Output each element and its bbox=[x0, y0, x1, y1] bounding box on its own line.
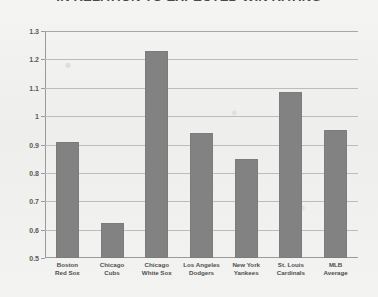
x-axis-label: ChicagoCubs bbox=[91, 261, 134, 277]
x-axis-label: MLBAverage bbox=[314, 261, 357, 277]
x-axis-label: BostonRed Sox bbox=[46, 261, 89, 277]
y-tick-label: 1.1 bbox=[29, 84, 39, 91]
x-axis-label-line: Chicago bbox=[91, 261, 134, 269]
x-axis-label-line: New York bbox=[225, 261, 268, 269]
chart-title-text: IN RELATION TO EXPECTED WIN RATING bbox=[56, 0, 321, 4]
y-tick-label: 0.7 bbox=[29, 198, 39, 205]
bar-slot bbox=[190, 31, 213, 258]
x-axis-label-line: Red Sox bbox=[46, 269, 89, 277]
y-tick-label: 0.5 bbox=[29, 255, 39, 262]
x-axis-label: Los AngelesDodgers bbox=[180, 261, 223, 277]
y-tick-label: 0.6 bbox=[29, 226, 39, 233]
x-axis-label: New YorkYankees bbox=[225, 261, 268, 277]
y-tick-mark bbox=[41, 258, 45, 259]
bar bbox=[235, 159, 258, 258]
plot-area: 0.50.60.70.80.911.11.21.3 bbox=[45, 31, 358, 258]
bar-slot bbox=[145, 31, 168, 258]
bar-chart-figure: IN RELATION TO EXPECTED WIN RATING 0.50.… bbox=[0, 0, 378, 297]
x-axis-label-line: Cardinals bbox=[270, 269, 313, 277]
bar-slot bbox=[324, 31, 347, 258]
y-tick-label: 0.8 bbox=[29, 169, 39, 176]
x-axis-labels: BostonRed SoxChicagoCubsChicagoWhite Sox… bbox=[45, 261, 358, 291]
bar-slot bbox=[56, 31, 79, 258]
x-axis-label-line: Chicago bbox=[135, 261, 178, 269]
bar bbox=[145, 51, 168, 258]
x-axis-label-line: White Sox bbox=[135, 269, 178, 277]
y-tick-label: 1 bbox=[35, 113, 39, 120]
x-axis-label-line: St. Louis bbox=[270, 261, 313, 269]
x-axis-label: ChicagoWhite Sox bbox=[135, 261, 178, 277]
bar bbox=[324, 130, 347, 258]
x-axis-label-line: Los Angeles bbox=[180, 261, 223, 269]
bar-slot bbox=[279, 31, 302, 258]
x-axis-label-line: Boston bbox=[46, 261, 89, 269]
bar-slot bbox=[235, 31, 258, 258]
bar bbox=[279, 92, 302, 258]
x-axis-label: St. LouisCardinals bbox=[270, 261, 313, 277]
x-axis-label-line: Dodgers bbox=[180, 269, 223, 277]
bar bbox=[190, 133, 213, 258]
bar bbox=[101, 223, 124, 258]
y-tick-label: 0.9 bbox=[29, 141, 39, 148]
x-axis-label-line: Yankees bbox=[225, 269, 268, 277]
bar bbox=[56, 142, 79, 258]
x-axis-label-line: Cubs bbox=[91, 269, 134, 277]
x-axis-label-line: MLB bbox=[314, 261, 357, 269]
bars-group bbox=[45, 31, 358, 258]
y-tick-label: 1.2 bbox=[29, 56, 39, 63]
y-tick-label: 1.3 bbox=[29, 28, 39, 35]
bar-slot bbox=[101, 31, 124, 258]
x-axis-label-line: Average bbox=[314, 269, 357, 277]
chart-title: IN RELATION TO EXPECTED WIN RATING bbox=[0, 0, 378, 5]
